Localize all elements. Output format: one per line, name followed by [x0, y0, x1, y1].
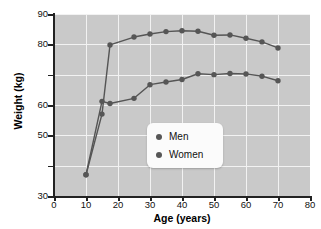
y-tick-label-60: 60 — [24, 100, 48, 110]
data-point-men-65 — [259, 39, 264, 44]
legend-item-men: Men — [156, 129, 188, 145]
legend-marker-icon — [156, 152, 162, 158]
series-plot — [54, 14, 310, 196]
data-point-men-45 — [195, 29, 200, 34]
y-tick-label-90: 90 — [24, 9, 48, 19]
y-tick-70 — [48, 75, 54, 77]
data-point-men-30 — [147, 31, 152, 36]
legend-item-women: Women — [156, 147, 203, 163]
x-tick-label-40: 40 — [169, 200, 195, 210]
data-point-men-35 — [163, 29, 168, 34]
data-point-women-65 — [259, 73, 264, 78]
y-axis-title: Weight (kg) — [12, 46, 24, 156]
x-tick-label-0: 0 — [41, 200, 67, 210]
data-point-women-45 — [195, 71, 200, 76]
y-tick-60 — [48, 105, 54, 107]
data-point-women-15 — [99, 99, 104, 104]
x-tick-label-60: 60 — [233, 200, 259, 210]
x-tick-label-50: 50 — [201, 200, 227, 210]
data-point-men-40 — [179, 28, 184, 33]
legend-label-women: Women — [169, 150, 203, 160]
data-point-women-35 — [163, 79, 168, 84]
y-tick-80 — [48, 44, 54, 46]
data-point-women-17.5 — [107, 101, 112, 106]
y-tick-label-80: 80 — [24, 39, 48, 49]
x-tick-label-80: 80 — [297, 200, 321, 210]
data-point-men-25 — [131, 34, 136, 39]
data-point-men-17.5 — [107, 42, 112, 47]
x-tick-label-20: 20 — [105, 200, 131, 210]
data-point-women-30 — [147, 82, 152, 87]
legend-marker-icon — [156, 134, 162, 140]
chart-legend: Men Women — [147, 123, 223, 168]
y-tick-90 — [48, 14, 54, 16]
data-point-men-60 — [243, 36, 248, 41]
x-tick-label-70: 70 — [265, 200, 291, 210]
data-point-women-70 — [275, 78, 280, 83]
data-point-women-55 — [227, 71, 232, 76]
y-tick-50 — [48, 135, 54, 137]
x-tick-label-30: 30 — [137, 200, 163, 210]
plot-area: Men Women — [54, 14, 310, 196]
data-point-women-25 — [131, 96, 136, 101]
data-point-women-60 — [243, 71, 248, 76]
data-point-men-55 — [227, 32, 232, 37]
data-point-men-50 — [211, 33, 216, 38]
data-point-men-70 — [275, 45, 280, 50]
y-tick-label-50: 50 — [24, 130, 48, 140]
chart-figure: Men Women 3050608090 01020304050607080 W… — [0, 0, 321, 229]
x-tick-label-10: 10 — [73, 200, 99, 210]
legend-label-men: Men — [169, 132, 188, 142]
data-point-women-40 — [179, 77, 184, 82]
x-axis-title: Age (years) — [54, 212, 310, 224]
data-point-women-50 — [211, 72, 216, 77]
y-tick-40 — [48, 166, 54, 168]
data-point-women-10 — [83, 172, 88, 177]
